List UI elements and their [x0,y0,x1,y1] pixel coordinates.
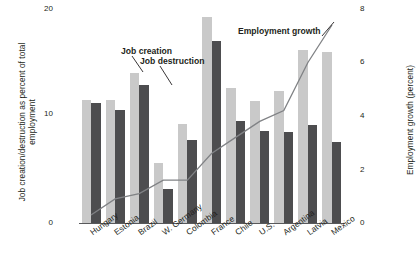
bar-group [82,100,101,223]
bar-group [202,17,221,224]
left-tick-20: 20 [31,4,53,13]
bar-job-creation [322,52,332,223]
bar-job-destruction [284,132,294,223]
bar-job-destruction [212,41,222,223]
bar-job-creation [154,163,164,223]
right-tick-4: 4 [360,111,382,120]
right-axis-title: Employment growth (percent) [406,25,416,215]
bar-group [106,100,125,223]
plot-area [79,9,344,223]
right-tick-0: 0 [360,218,382,227]
bar-job-destruction [139,85,149,223]
x-axis-labels: HungaryEstoniaBrazilW. GermanyColombiaFr… [79,225,359,279]
bar-job-creation [226,88,236,223]
bar-job-creation [274,91,284,223]
right-tick-6: 6 [360,57,382,66]
right-tick-8: 8 [360,4,382,13]
bar-group [130,73,149,223]
bar-group [154,163,173,223]
right-tick-2: 2 [360,165,382,174]
left-tick-0: 0 [31,218,53,227]
bar-group [226,88,245,223]
bar-job-destruction [236,121,246,223]
bar-group [274,91,293,223]
bar-job-destruction [115,110,125,223]
bar-job-creation [202,17,212,224]
left-axis-title: Job creation/destruction as percent of t… [18,27,38,217]
bar-job-creation [82,100,92,223]
chart-container: Job creation/destruction as percent of t… [0,0,416,279]
bar-group [250,101,269,223]
bar-job-creation [106,100,116,223]
annotation-job-creation: Job creation [121,46,172,56]
bar-job-destruction [260,131,270,223]
bar-job-creation [178,124,188,224]
annotation-employment-growth: Employment growth [238,26,321,36]
bar-job-creation [250,101,260,223]
bar-group [298,50,317,223]
bar-job-creation [298,50,308,223]
bar-group [322,52,341,223]
left-tick-10: 10 [31,109,53,118]
bar-job-destruction [163,189,173,223]
bar-job-destruction [91,103,101,223]
annotation-job-destruction: Job destruction [140,56,204,66]
bar-job-destruction [332,142,342,223]
bar-job-creation [130,73,140,223]
